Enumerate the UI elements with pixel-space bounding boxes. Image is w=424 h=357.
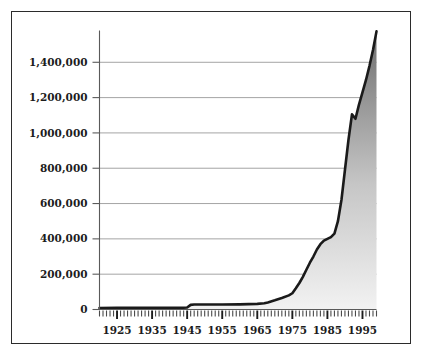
y-tick-label: 0 bbox=[80, 303, 87, 315]
chart-figure: 0200,000400,000600,000800,0001,000,0001,… bbox=[0, 0, 424, 357]
x-tick-label: 1925 bbox=[102, 324, 131, 336]
line-area-chart: 0200,000400,000600,000800,0001,000,0001,… bbox=[0, 0, 424, 357]
x-tick-label: 1985 bbox=[313, 324, 342, 336]
y-tick-label: 400,000 bbox=[40, 232, 88, 244]
y-axis-ticks: 0200,000400,000600,000800,0001,000,0001,… bbox=[29, 56, 99, 315]
y-tick-label: 1,400,000 bbox=[29, 56, 87, 68]
x-tick-label: 1945 bbox=[173, 324, 202, 336]
x-tick-label: 1995 bbox=[348, 324, 377, 336]
y-tick-label: 800,000 bbox=[40, 162, 88, 174]
x-axis-ticks bbox=[100, 311, 377, 320]
y-tick-label: 600,000 bbox=[40, 197, 88, 209]
y-tick-label: 1,000,000 bbox=[29, 127, 87, 139]
x-tick-label: 1975 bbox=[278, 324, 307, 336]
y-tick-label: 1,200,000 bbox=[29, 91, 87, 103]
x-axis-labels: 19251935194519551965197519851995 bbox=[102, 324, 377, 336]
x-tick-label: 1965 bbox=[243, 324, 272, 336]
y-tick-label: 200,000 bbox=[40, 268, 88, 280]
x-tick-label: 1955 bbox=[208, 324, 237, 336]
x-tick-label: 1935 bbox=[137, 324, 166, 336]
